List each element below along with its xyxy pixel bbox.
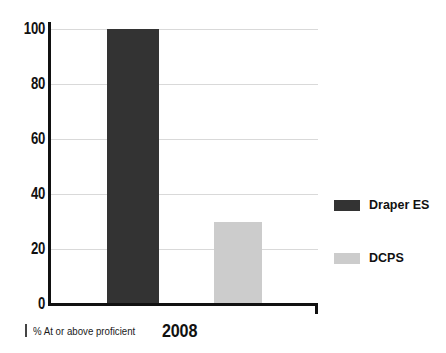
x-axis-end-tick xyxy=(315,303,318,314)
y-tick-0: 0 xyxy=(12,296,45,312)
legend-swatch-dcps xyxy=(334,253,360,264)
y-tick-20: 20 xyxy=(12,241,45,257)
y-tick-100: 100 xyxy=(12,21,45,37)
gridline-80 xyxy=(51,84,318,85)
legend-label-dcps: DCPS xyxy=(369,252,404,265)
y-axis-tick-labels: 100 80 60 40 20 0 xyxy=(0,29,45,304)
legend: Draper ES DCPS xyxy=(334,198,429,304)
bar-draper-es-2008 xyxy=(107,29,159,304)
y-axis-line xyxy=(48,22,51,305)
gridline-20 xyxy=(51,249,318,250)
bar-dcps-2008 xyxy=(214,222,262,305)
x-axis-line xyxy=(48,303,318,306)
y-tick-60: 60 xyxy=(12,131,45,147)
legend-label-draper-es: Draper ES xyxy=(369,199,429,212)
axis-tick-marker-icon xyxy=(25,324,27,337)
legend-swatch-draper-es xyxy=(334,200,360,211)
plot-area xyxy=(51,29,318,304)
y-tick-80: 80 xyxy=(12,76,45,92)
y-tick-40: 40 xyxy=(12,186,45,202)
x-category-label-2008: 2008 xyxy=(162,321,197,340)
legend-item-dcps: DCPS xyxy=(334,251,429,265)
legend-item-draper-es: Draper ES xyxy=(334,198,429,212)
gridline-100 xyxy=(51,29,318,30)
bar-chart: 100 80 60 40 20 0 2008 % At or above pro… xyxy=(0,0,446,353)
gridline-40 xyxy=(51,194,318,195)
y-axis-title: % At or above proficient xyxy=(25,324,149,337)
y-axis-title-text: % At or above proficient xyxy=(33,325,135,337)
gridline-60 xyxy=(51,139,318,140)
